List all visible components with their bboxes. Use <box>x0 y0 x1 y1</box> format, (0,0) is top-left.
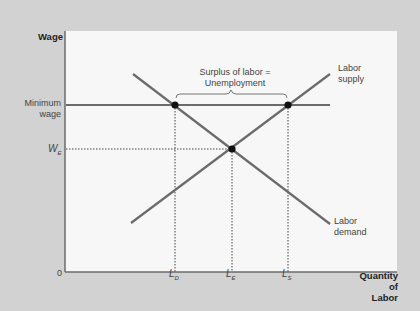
x-axis-label-line1: Quantity of <box>348 270 398 292</box>
le-label: LE <box>226 268 236 284</box>
labor-demand-label-line2: demand <box>334 227 367 238</box>
min-wage-label-line2: wage <box>23 109 61 120</box>
origin-label: 0 <box>57 268 62 279</box>
supply-at-min-wage-point <box>284 101 291 108</box>
demand-at-min-wage-point <box>171 101 178 108</box>
labor-demand-label-line1: Labor <box>334 216 367 227</box>
ls-label-sub: S <box>288 275 292 281</box>
x-axis-label-line2: Labor <box>348 292 398 303</box>
labor-supply-label-line2: supply <box>338 74 364 85</box>
labor-supply-label: Labor supply <box>338 63 364 85</box>
ls-label: LS <box>282 268 292 284</box>
we-label-sub: E <box>57 150 61 156</box>
min-wage-label-line1: Minimum <box>23 98 61 109</box>
x-axis-label: Quantity of Labor <box>348 270 398 303</box>
min-wage-label: Minimum wage <box>23 98 61 120</box>
equilibrium-point <box>228 145 235 152</box>
surplus-brace <box>176 90 287 98</box>
chart-svg <box>0 0 420 311</box>
surplus-annotation-line2: Unemployment <box>180 78 290 89</box>
y-axis-label: Wage <box>38 31 63 42</box>
we-label: WE <box>48 143 61 159</box>
le-label-sub: E <box>232 275 236 281</box>
labor-demand-label: Labor demand <box>334 216 367 238</box>
ld-label-sub: D <box>175 275 179 281</box>
ld-label: LD <box>169 268 179 284</box>
labor-supply-label-line1: Labor <box>338 63 364 74</box>
surplus-annotation: Surplus of labor = Unemployment <box>180 67 290 89</box>
surplus-annotation-line1: Surplus of labor = <box>180 67 290 78</box>
